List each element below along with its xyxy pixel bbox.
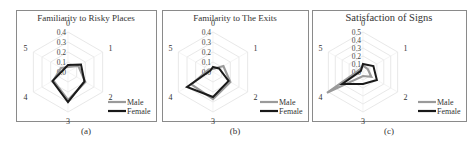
axis-label-4: 4 (319, 93, 323, 102)
axis-label-1: 1 (403, 44, 407, 53)
radial-tick-label: 0.5 (352, 28, 362, 37)
axis-label-1: 1 (108, 44, 112, 53)
axis-label-5: 5 (24, 44, 28, 53)
panel-caption: (b) (230, 126, 241, 136)
axis-label-5: 5 (169, 44, 173, 53)
axis-label-2: 2 (253, 93, 257, 102)
axis-label-3: 3 (361, 117, 365, 126)
radial-tick-label: 0.2 (57, 48, 67, 57)
axis-label-0: 0 (361, 19, 365, 28)
radial-tick-label: 0.3 (202, 38, 212, 47)
chart-panel-a: Familiarity to Risky Places0123450.00.10… (17, 11, 157, 127)
axis-label-2: 2 (403, 93, 407, 102)
radial-tick-label: 0.2 (352, 52, 362, 61)
axis-label-5: 5 (319, 44, 323, 53)
chart-panel-c: Satisfaction of Signs0123450.00.10.20.30… (313, 11, 467, 127)
radial-tick-label: 0.4 (202, 28, 212, 37)
axis-label-4: 4 (169, 93, 173, 102)
axis-label-4: 4 (24, 93, 28, 102)
panel-caption: (a) (81, 126, 91, 136)
axis-label-1: 1 (253, 44, 257, 53)
axis-label-3: 3 (211, 117, 215, 126)
legend-label-male: Male (127, 98, 144, 107)
radial-tick-label: 0.1 (202, 58, 212, 67)
legend-label-male: Male (279, 98, 296, 107)
chart-title: Satisfaction of Signs (346, 12, 433, 23)
radial-tick-label: 0.1 (57, 58, 67, 67)
radar-charts-svg: Familiarity to Risky Places0123450.00.10… (0, 0, 471, 141)
chart-title: Familiarity to Risky Places (37, 13, 135, 23)
panel-caption: (c) (384, 126, 394, 136)
legend-label-female: Female (279, 107, 303, 116)
chart-panel-b: Familarity to The Exits0123450.00.10.20.… (163, 11, 309, 127)
radial-tick-label: 0.3 (352, 44, 362, 53)
axis-label-0: 0 (66, 19, 70, 28)
legend-label-female: Female (437, 107, 461, 116)
chart-title: Familarity to The Exits (193, 13, 277, 23)
axis-label-3: 3 (66, 117, 70, 126)
radial-tick-label: 0.4 (57, 28, 67, 37)
legend-label-female: Female (127, 107, 151, 116)
axis-label-2: 2 (108, 93, 112, 102)
radial-tick-label: 0.3 (57, 38, 67, 47)
legend-label-male: Male (437, 98, 454, 107)
radial-tick-label: 0.2 (202, 48, 212, 57)
radial-tick-label: 0.4 (352, 36, 362, 45)
axis-label-0: 0 (211, 19, 215, 28)
radial-tick-label: 0.1 (352, 60, 362, 69)
